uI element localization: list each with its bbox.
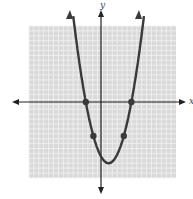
y-axis-down-arrow-icon: [98, 187, 104, 194]
x-axis-left-arrow-icon: [12, 99, 19, 105]
y-axis-up-arrow-icon: [98, 10, 104, 17]
x-axis-label: x: [189, 96, 193, 106]
marked-point: [83, 99, 89, 105]
marked-point: [90, 133, 96, 139]
marked-point: [128, 99, 134, 105]
curve-right-arrow-icon: [135, 10, 142, 19]
graph: [0, 0, 193, 199]
y-axis-label: y: [100, 0, 105, 10]
curve-left-arrow-icon: [66, 10, 73, 19]
marked-point: [121, 133, 127, 139]
x-axis-right-arrow-icon: [179, 99, 186, 105]
